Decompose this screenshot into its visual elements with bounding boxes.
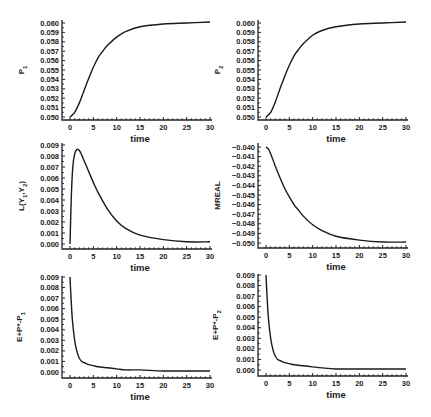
y-axis-label: E+P*-P1: [15, 311, 26, 341]
y-tick-label: 0.003: [236, 334, 255, 343]
y-tick-label: 0.008: [236, 281, 255, 290]
x-tick-label: 25: [378, 379, 386, 388]
x-tick-label: 20: [355, 379, 363, 388]
y-tick-label: −0.043: [232, 171, 255, 180]
chart-l-y1-y2: 0.0000.0010.0020.0030.0040.0050.0060.007…: [17, 141, 214, 273]
figure-canvas: 0.0500.0510.0520.0530.0540.0550.0560.057…: [0, 0, 431, 417]
x-tick-label: 15: [136, 381, 144, 390]
y-tick-label: 0.055: [236, 66, 255, 75]
x-tick-label: 10: [308, 251, 316, 260]
y-tick-label: 0.005: [40, 185, 59, 194]
x-axis-label: time: [326, 389, 346, 400]
x-tick-label: 0: [264, 379, 268, 388]
x-axis-label: time: [130, 133, 150, 144]
x-tick-label: 15: [136, 252, 144, 261]
x-tick-label: 10: [112, 252, 120, 261]
x-axis-label: time: [326, 261, 346, 272]
x-tick-label: 5: [287, 379, 291, 388]
x-tick-label: 20: [159, 381, 167, 390]
y-tick-label: 0.004: [236, 323, 256, 332]
y-tick-label: 0.060: [236, 19, 255, 28]
x-tick-label: 25: [378, 251, 386, 260]
axis-lines: [258, 143, 408, 248]
x-tick-label: 25: [182, 252, 190, 261]
x-tick-label: 25: [378, 123, 386, 132]
y-tick-label: −0.044: [232, 181, 256, 190]
x-tick-label: 30: [402, 379, 410, 388]
x-tick-label: 10: [112, 381, 120, 390]
y-tick-label: 0.002: [40, 346, 59, 355]
x-tick-label: 20: [355, 251, 363, 260]
x-axis-label: time: [326, 133, 346, 144]
x-tick-label: 15: [332, 379, 340, 388]
y-tick-label: 0.004: [40, 196, 60, 205]
axis-lines: [258, 20, 408, 120]
y-tick-label: 0.002: [40, 218, 59, 227]
y-tick-label: 0.001: [40, 357, 59, 366]
y-tick-label: 0.052: [236, 94, 255, 103]
x-tick-label: 15: [332, 123, 340, 132]
y-tick-label: 0.057: [236, 47, 255, 56]
y-tick-label: 0.005: [236, 313, 255, 322]
x-axis-label: time: [130, 262, 150, 273]
chart-gap-p2: 0.0000.0010.0020.0030.0040.0050.0060.007…: [211, 271, 410, 400]
x-tick-label: 0: [68, 123, 72, 132]
y-tick-label: 0.006: [40, 174, 59, 183]
x-tick-label: 30: [206, 123, 214, 132]
x-tick-label: 15: [136, 123, 144, 132]
x-tick-label: 5: [287, 123, 291, 132]
y-tick-label: −0.047: [232, 210, 255, 219]
y-tick-label: 0.003: [40, 207, 59, 216]
y-tick-label: 0.008: [40, 283, 59, 292]
y-tick-label: −0.048: [232, 219, 255, 228]
y-tick-label: 0.009: [236, 271, 255, 280]
y-tick-label: 0.000: [40, 368, 59, 377]
y-tick-label: 0.001: [40, 229, 59, 238]
x-tick-label: 20: [159, 123, 167, 132]
y-tick-label: 0.058: [40, 37, 59, 46]
x-tick-label: 0: [264, 123, 268, 132]
y-tick-label: 0.003: [40, 336, 59, 345]
x-tick-label: 15: [332, 251, 340, 260]
y-axis-label: MREAL: [213, 181, 222, 210]
axis-lines: [62, 143, 212, 249]
x-tick-label: 10: [308, 379, 316, 388]
y-axis-label: E+P*-P2: [211, 309, 222, 339]
x-tick-label: 0: [264, 251, 268, 260]
y-tick-label: 0.053: [236, 84, 255, 93]
y-tick-label: 0.053: [40, 84, 59, 93]
x-tick-label: 0: [68, 381, 72, 390]
y-axis-label: P2: [213, 65, 224, 74]
y-tick-label: 0.007: [40, 294, 59, 303]
y-tick-label: 0.000: [40, 240, 59, 249]
y-tick-label: 0.006: [236, 302, 255, 311]
y-tick-label: 0.007: [40, 163, 59, 172]
x-axis-label: time: [130, 391, 150, 402]
y-tick-label: 0.056: [236, 56, 255, 65]
y-tick-label: 0.050: [236, 113, 255, 122]
y-tick-label: −0.050: [232, 239, 255, 248]
x-tick-label: 5: [287, 251, 291, 260]
y-tick-label: −0.046: [232, 200, 255, 209]
y-tick-label: 0.051: [40, 103, 59, 112]
x-tick-label: 30: [402, 251, 410, 260]
y-tick-label: 0.008: [40, 152, 59, 161]
chart-p2: 0.0500.0510.0520.0530.0540.0550.0560.057…: [213, 19, 410, 144]
y-tick-label: −0.042: [232, 162, 255, 171]
y-tick-label: 0.009: [40, 141, 59, 150]
y-axis-label: P1: [17, 65, 28, 74]
y-tick-label: 0.056: [40, 56, 59, 65]
y-tick-label: 0.006: [40, 304, 59, 313]
y-tick-label: 0.054: [40, 75, 60, 84]
y-tick-label: 0.005: [40, 315, 59, 324]
x-tick-label: 10: [308, 123, 316, 132]
y-tick-label: −0.041: [232, 152, 255, 161]
series-line-gap2: [266, 275, 406, 369]
x-tick-label: 10: [112, 123, 120, 132]
series-line-p1: [70, 22, 210, 117]
y-tick-label: 0.054: [236, 75, 256, 84]
y-tick-label: −0.040: [232, 143, 255, 152]
y-tick-label: 0.055: [40, 66, 59, 75]
x-tick-label: 20: [159, 252, 167, 261]
x-tick-label: 30: [206, 381, 214, 390]
